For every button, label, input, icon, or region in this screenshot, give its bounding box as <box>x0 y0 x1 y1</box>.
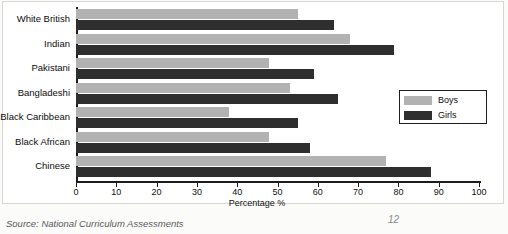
bar-boys <box>76 132 269 142</box>
bar-girls <box>76 45 394 55</box>
value-axis-line <box>76 181 481 183</box>
page-number: 12 <box>388 214 399 225</box>
bar-boys <box>76 9 298 19</box>
x-tick-label: 100 <box>471 187 486 197</box>
x-tick-label: 50 <box>272 187 282 197</box>
legend-label-boys: Boys <box>438 95 458 105</box>
x-tick-label: 30 <box>192 187 202 197</box>
legend-swatch-girls <box>404 111 432 120</box>
bar-boys <box>76 34 350 44</box>
source-caption: Source: National Curriculum Assessments <box>6 218 184 229</box>
bar-boys <box>76 83 290 93</box>
category-label: Bangladeshi <box>18 87 70 98</box>
x-tick-label: 60 <box>313 187 323 197</box>
chart-row: White British <box>76 9 479 33</box>
category-label: Black African <box>15 136 70 147</box>
legend: Boys Girls <box>399 90 487 124</box>
x-tick-label: 70 <box>353 187 363 197</box>
x-tick-label: 20 <box>152 187 162 197</box>
source-label: Source: <box>6 218 39 229</box>
chart-row: Indian <box>76 34 479 58</box>
bar-girls <box>76 69 314 79</box>
x-tick-label: 90 <box>434 187 444 197</box>
bar-boys <box>76 156 386 166</box>
source-text: National Curriculum Assessments <box>41 218 183 229</box>
category-label: Indian <box>44 38 70 49</box>
legend-swatch-boys <box>404 96 432 105</box>
legend-item-boys: Boys <box>404 94 482 106</box>
category-label: Chinese <box>35 160 70 171</box>
bar-boys <box>76 107 229 117</box>
legend-item-girls: Girls <box>404 109 482 121</box>
x-tick-label: 80 <box>393 187 403 197</box>
bar-girls <box>76 167 431 177</box>
chart-row: Pakistani <box>76 58 479 82</box>
bar-girls <box>76 20 334 30</box>
bar-girls <box>76 143 310 153</box>
x-tick-label: 40 <box>232 187 242 197</box>
bar-boys <box>76 58 269 68</box>
x-tick-label: 0 <box>73 187 78 197</box>
chart-row: Chinese <box>76 156 479 180</box>
bar-girls <box>76 94 338 104</box>
figure: White BritishIndianPakistaniBangladeshiB… <box>0 0 508 234</box>
category-label: Black Caribbean <box>0 111 70 122</box>
x-axis-title: Percentage % <box>3 198 508 208</box>
legend-label-girls: Girls <box>438 110 457 120</box>
x-tick-label: 10 <box>111 187 121 197</box>
chart-panel: White BritishIndianPakistaniBangladeshiB… <box>2 1 504 204</box>
chart-row: Black African <box>76 132 479 156</box>
category-label: White British <box>17 13 70 24</box>
category-label: Pakistani <box>31 62 70 73</box>
bar-girls <box>76 118 298 128</box>
